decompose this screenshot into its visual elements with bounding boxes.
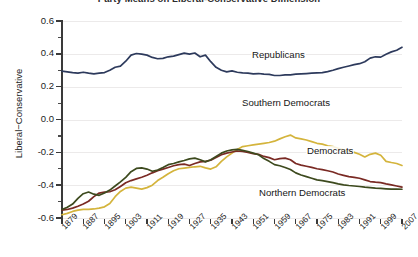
series-label-southern-democrats: Southern Democrats [241, 98, 331, 108]
series-label-democrats: Democrats [306, 146, 354, 156]
series-label-republicans: Republicans [251, 50, 306, 60]
chart-root: Party Means on Liberal-Conservative Dime… [0, 0, 418, 257]
series-line-republicans [62, 47, 402, 75]
chart-series-lines [0, 0, 418, 257]
series-line-democrats [62, 151, 402, 210]
series-label-northern-democrats: Northern Democrats [258, 188, 346, 198]
